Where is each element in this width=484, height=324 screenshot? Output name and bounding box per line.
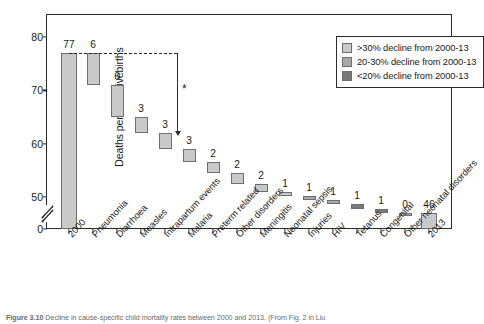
bar bbox=[159, 133, 172, 149]
legend-swatch-medium bbox=[342, 57, 352, 67]
y-tick-label: 50 bbox=[31, 191, 43, 203]
legend-label: <20% decline from 2000-13 bbox=[357, 71, 468, 81]
figure-caption-number: Figure 3.10 bbox=[6, 313, 43, 322]
bar-value-label: 1 bbox=[354, 190, 360, 201]
legend-item: <20% decline from 2000-13 bbox=[342, 69, 476, 83]
bar bbox=[351, 204, 364, 208]
bar bbox=[183, 149, 196, 162]
decline-arrow-line bbox=[177, 53, 178, 133]
chart-legend: >30% decline from 2000-1320-30% decline … bbox=[336, 36, 484, 88]
legend-label: 20-30% decline from 2000-13 bbox=[357, 57, 476, 67]
bar-value-label: 6 bbox=[90, 39, 96, 50]
bar bbox=[207, 162, 220, 173]
figure-caption-text: Decline in cause-specific child mortalit… bbox=[45, 313, 325, 322]
y-tick-label: 80 bbox=[31, 31, 43, 43]
bar-value-label: 3 bbox=[138, 103, 144, 114]
y-tick-label: 60 bbox=[31, 138, 43, 150]
bar-value-label: 1 bbox=[378, 195, 384, 206]
bar bbox=[111, 85, 124, 117]
bar bbox=[61, 53, 77, 229]
bar-value-label: 1 bbox=[306, 182, 312, 193]
bar-value-label: 3 bbox=[162, 119, 168, 130]
bar-value-label: 77 bbox=[63, 39, 74, 50]
legend-item: >30% decline from 2000-13 bbox=[342, 41, 476, 55]
bar-value-label: 1 bbox=[282, 178, 288, 189]
y-tick-mark bbox=[43, 228, 48, 229]
y-tick-label: 0 bbox=[37, 223, 43, 235]
bar-value-label: 6 bbox=[114, 71, 120, 82]
legend-swatch-light bbox=[342, 43, 352, 53]
figure-caption: Figure 3.10 Decline in cause-specific ch… bbox=[6, 313, 462, 322]
significance-asterisk: * bbox=[182, 83, 187, 95]
legend-item: 20-30% decline from 2000-13 bbox=[342, 55, 476, 69]
bar bbox=[135, 117, 148, 133]
bar-value-label: 3 bbox=[186, 135, 192, 146]
legend-label: >30% decline from 2000-13 bbox=[357, 43, 468, 53]
baseline-dashed-connector bbox=[69, 53, 177, 54]
bar-value-label: 2 bbox=[234, 159, 240, 170]
decline-arrow-head-icon bbox=[175, 131, 181, 136]
bar-value-label: 2 bbox=[210, 148, 216, 159]
y-tick-label: 70 bbox=[31, 84, 43, 96]
bar bbox=[231, 173, 244, 184]
bar-value-label: 2 bbox=[258, 170, 264, 181]
legend-swatch-dark bbox=[342, 71, 352, 81]
bar bbox=[87, 53, 100, 85]
bar bbox=[327, 200, 340, 204]
y-axis-break-icon bbox=[41, 203, 55, 223]
